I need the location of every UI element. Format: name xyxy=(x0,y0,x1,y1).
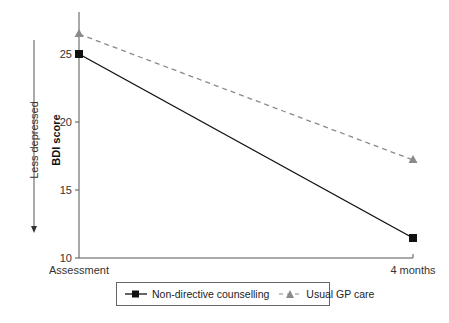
series-counselling-line xyxy=(79,54,413,238)
legend-item-counselling: Non-directive counselling xyxy=(125,288,269,300)
legend: Non-directive counselling Usual GP care xyxy=(116,282,330,306)
y-tick-label: 15 xyxy=(60,184,72,196)
series-usual-gp-care-line xyxy=(79,34,413,160)
y-tick-label: 10 xyxy=(60,252,72,264)
legend-label: Non-directive counselling xyxy=(152,288,269,300)
y-tick-label: 25 xyxy=(60,48,72,60)
legend-square-line-icon xyxy=(125,289,147,299)
legend-label: Usual GP care xyxy=(306,288,374,300)
side-label: Less depressed xyxy=(28,101,40,179)
triangle-marker-icon xyxy=(75,29,84,37)
y-ticks: 25 20 15 10 xyxy=(60,48,79,264)
x-tick-label: 4 months xyxy=(390,264,436,276)
square-marker-icon xyxy=(409,234,417,242)
x-tick-label: Assessment xyxy=(49,264,109,276)
arrow-head-icon xyxy=(31,226,37,233)
legend-triangle-dash-icon xyxy=(279,289,301,299)
square-marker-icon xyxy=(75,50,83,58)
chart: Less depressed BDI score 25 20 15 10 Ass… xyxy=(0,0,449,323)
y-tick-label: 20 xyxy=(60,116,72,128)
legend-item-usual-care: Usual GP care xyxy=(279,288,374,300)
